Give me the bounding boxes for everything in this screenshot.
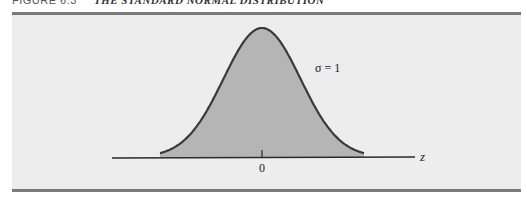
zero-tick-label: 0 — [259, 161, 265, 175]
normal-distribution-chart: 0 z σ = 1 — [0, 0, 527, 200]
x-axis — [112, 157, 415, 158]
axis-label-z: z — [419, 149, 425, 164]
sigma-annotation: σ = 1 — [315, 61, 340, 75]
curve-fill-area — [160, 28, 364, 157]
